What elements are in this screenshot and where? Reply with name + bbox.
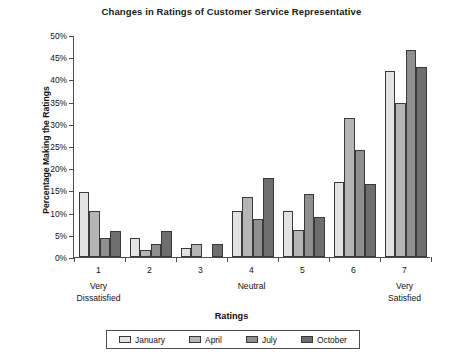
x-axis-sublabel: VerySatisfied bbox=[388, 281, 421, 304]
x-axis-tick bbox=[176, 257, 177, 262]
y-axis-tick-label: 50% bbox=[50, 31, 67, 41]
x-axis-sublabel: Neutral bbox=[238, 281, 266, 293]
legend-label: July bbox=[262, 335, 277, 345]
x-axis-tick-label: 1 bbox=[96, 265, 101, 275]
bar-group bbox=[334, 36, 376, 257]
legend-label: April bbox=[205, 335, 222, 345]
x-axis-tick bbox=[278, 257, 279, 262]
y-axis-tick-label: 45% bbox=[50, 53, 67, 63]
y-axis-tick bbox=[69, 236, 74, 237]
y-axis-tick bbox=[69, 169, 74, 170]
y-axis-tick-label: 25% bbox=[50, 142, 67, 152]
chart-legend: JanuaryAprilJulyOctober bbox=[106, 330, 360, 349]
legend-label: October bbox=[317, 335, 347, 345]
y-axis-tick bbox=[69, 214, 74, 215]
bar-october-3 bbox=[212, 244, 223, 257]
bar-october-1 bbox=[110, 231, 121, 257]
plot-area: 0%5%10%15%20%25%30%35%40%45%50% bbox=[73, 36, 430, 258]
bar-april-6 bbox=[344, 118, 355, 257]
bar-july-1 bbox=[100, 238, 111, 257]
x-axis-tick-label: 6 bbox=[351, 265, 356, 275]
bar-january-6 bbox=[334, 182, 345, 257]
x-axis-tick bbox=[125, 257, 126, 262]
x-axis-tick bbox=[431, 257, 432, 262]
x-axis-tick-label: 2 bbox=[147, 265, 152, 275]
bar-january-2 bbox=[130, 238, 141, 257]
bar-july-6 bbox=[355, 150, 366, 257]
x-axis-tick-label: 4 bbox=[249, 265, 254, 275]
bar-april-2 bbox=[140, 250, 151, 257]
y-axis-tick-label: 30% bbox=[50, 120, 67, 130]
bar-october-5 bbox=[314, 217, 325, 257]
x-axis-tick bbox=[227, 257, 228, 262]
y-axis-tick-label: 40% bbox=[50, 75, 67, 85]
bar-group bbox=[232, 36, 274, 257]
y-axis-tick bbox=[69, 191, 74, 192]
y-axis-tick bbox=[69, 36, 74, 37]
bar-group bbox=[385, 36, 427, 257]
bar-july-2 bbox=[151, 244, 162, 257]
y-axis-tick-label: 20% bbox=[50, 164, 67, 174]
y-axis-tick bbox=[69, 58, 74, 59]
bar-october-7 bbox=[416, 67, 427, 257]
bar-october-4 bbox=[263, 178, 274, 257]
bar-january-4 bbox=[232, 211, 243, 257]
x-axis-title: Ratings bbox=[0, 311, 463, 321]
x-axis-tick-label: 5 bbox=[300, 265, 305, 275]
bar-april-3 bbox=[191, 244, 202, 257]
legend-item-october[interactable]: October bbox=[301, 335, 347, 345]
bar-april-1 bbox=[89, 211, 100, 257]
bar-group bbox=[130, 36, 172, 257]
bar-october-6 bbox=[365, 184, 376, 257]
x-axis-tick bbox=[329, 257, 330, 262]
bar-group bbox=[181, 36, 223, 257]
x-axis-tick bbox=[74, 257, 75, 262]
bar-july-4 bbox=[253, 219, 264, 257]
legend-swatch-january bbox=[119, 336, 131, 344]
legend-swatch-july bbox=[246, 336, 258, 344]
bar-group bbox=[79, 36, 121, 257]
y-axis-tick bbox=[69, 103, 74, 104]
x-axis-tick-label: 3 bbox=[198, 265, 203, 275]
bar-april-5 bbox=[293, 230, 304, 257]
legend-label: January bbox=[135, 335, 165, 345]
y-axis-tick-label: 5% bbox=[55, 231, 67, 241]
bar-january-7 bbox=[385, 71, 396, 257]
y-axis-tick-label: 10% bbox=[50, 209, 67, 219]
bar-january-1 bbox=[79, 192, 90, 257]
legend-swatch-april bbox=[189, 336, 201, 344]
y-axis-tick bbox=[69, 80, 74, 81]
bar-october-2 bbox=[161, 231, 172, 257]
legend-item-april[interactable]: April bbox=[189, 335, 222, 345]
bar-april-4 bbox=[242, 197, 253, 257]
bar-group bbox=[283, 36, 325, 257]
bar-april-7 bbox=[395, 103, 406, 257]
legend-item-january[interactable]: January bbox=[119, 335, 165, 345]
y-axis-tick-label: 15% bbox=[50, 186, 67, 196]
legend-item-july[interactable]: July bbox=[246, 335, 277, 345]
bar-january-3 bbox=[181, 248, 192, 257]
bar-chart: Changes in Ratings of Customer Service R… bbox=[0, 0, 463, 355]
y-axis-tick-label: 0% bbox=[55, 253, 67, 263]
legend-swatch-october bbox=[301, 336, 313, 344]
x-axis-sublabel: VeryDissatisfied bbox=[77, 281, 121, 304]
x-axis-tick-label: 7 bbox=[402, 265, 407, 275]
y-axis-tick bbox=[69, 147, 74, 148]
bar-january-5 bbox=[283, 211, 294, 257]
bar-july-7 bbox=[406, 50, 417, 257]
y-axis-tick bbox=[69, 125, 74, 126]
x-axis-tick bbox=[380, 257, 381, 262]
y-axis-tick-label: 35% bbox=[50, 98, 67, 108]
chart-title: Changes in Ratings of Customer Service R… bbox=[0, 6, 463, 17]
bar-july-5 bbox=[304, 194, 315, 257]
